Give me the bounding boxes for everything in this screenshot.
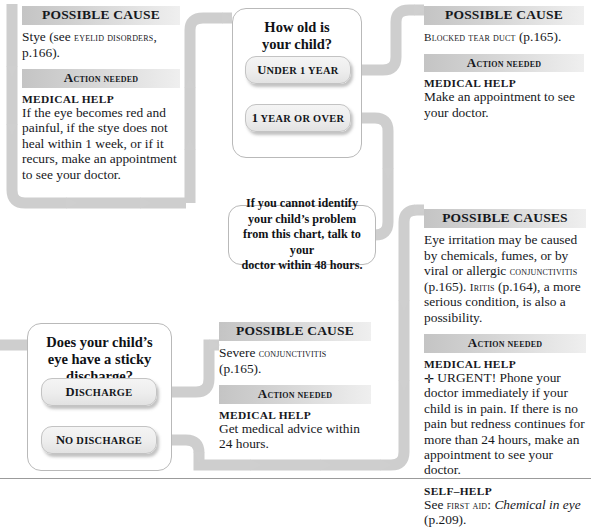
answer-discharge-label: DISCHARGE bbox=[66, 385, 133, 400]
eye-irritation-action-needed-heading: ACTION NEEDED bbox=[424, 334, 586, 353]
cannot-identify-line1: If you cannot identify bbox=[246, 196, 358, 210]
urgent-icon: ✛ bbox=[424, 373, 434, 385]
question-discharge-title-line2: eye have a sticky bbox=[48, 351, 152, 367]
panel-eye-irritation: POSSIBLE CAUSES Eye irritation may be ca… bbox=[424, 209, 586, 528]
blocked-tear-duct-medical-help-label: MEDICAL HELP bbox=[424, 77, 584, 89]
sc-cause-ref: (p.165). bbox=[219, 361, 261, 376]
stye-action-initial: A bbox=[64, 70, 74, 85]
eye-irritation-cause-text: Eye irritation may be caused by chemical… bbox=[424, 232, 586, 325]
severe-conjunctivitis-medical-help-label: MEDICAL HELP bbox=[219, 409, 371, 421]
btd-action-initial: A bbox=[467, 55, 477, 70]
question-discharge-title-line1: Does your child’s bbox=[46, 334, 152, 350]
eye-irritation-ref-1: (p.165). bbox=[424, 279, 470, 294]
scj-action-rest: CTION NEEDED bbox=[267, 388, 332, 400]
self-help-ref: (p.209). bbox=[424, 512, 466, 527]
answer-no-discharge-label: NO DISCHARGE bbox=[56, 433, 142, 448]
eye-irritation-self-help-label: SELF–HELP bbox=[424, 485, 586, 497]
panel-blocked-tear-duct: POSSIBLE CAUSE Blocked tear duct (p.165)… bbox=[424, 6, 584, 120]
cannot-identify-text: If you cannot identify your child’s prob… bbox=[236, 196, 368, 274]
eye-irritation-possible-causes-heading: POSSIBLE CAUSES bbox=[424, 209, 586, 228]
answer-under-1-year[interactable]: UNDER 1 YEAR bbox=[245, 56, 351, 84]
blocked-tear-duct-term: Blocked tear duct bbox=[424, 31, 516, 43]
severe-conjunctivitis-cause-text: Severe conjunctivitis (p.165). bbox=[219, 345, 371, 376]
answer-1-year-or-over[interactable]: 1 YEAR OR OVER bbox=[245, 104, 351, 132]
severe-conjunctivitis-medical-help-text: Get medical advice within 24 hours. bbox=[219, 421, 371, 452]
eye-irritation-term-iritis: Iritis bbox=[470, 281, 495, 293]
answer-under-1-year-rest: NDER 1 YEAR bbox=[266, 65, 338, 76]
eye-irritation-medical-help-label: MEDICAL HELP bbox=[424, 358, 586, 370]
blocked-tear-duct-page-ref: (p.165). bbox=[516, 29, 562, 44]
answer-1-year-or-over-label: 1 YEAR OR OVER bbox=[252, 111, 345, 126]
panel-severe-conjunctivitis: POSSIBLE CAUSE Severe conjunctivitis (p.… bbox=[219, 322, 371, 452]
answer-discharge[interactable]: DISCHARGE bbox=[41, 378, 157, 406]
answer-discharge-initial: D bbox=[66, 385, 75, 399]
ei-action-rest: CTION NEEDED bbox=[477, 337, 542, 349]
answer-no-discharge-rest: O DISCHARGE bbox=[65, 435, 142, 446]
sc-term-conjunctivitis: conjunctivitis bbox=[259, 347, 327, 359]
self-help-topic: Chemical in eye bbox=[494, 497, 580, 512]
stye-cause-term: eyelid disorders bbox=[74, 31, 153, 43]
severe-conjunctivitis-possible-cause-heading: POSSIBLE CAUSE bbox=[219, 322, 371, 341]
self-help-lead: See bbox=[424, 497, 447, 512]
cannot-identify-line4: doctor within 48 hours. bbox=[242, 258, 363, 272]
question-age-title-line1: How old is bbox=[264, 19, 329, 35]
self-help-term-first-aid: first aid bbox=[447, 499, 488, 511]
answer-no-discharge[interactable]: NO DISCHARGE bbox=[41, 426, 157, 454]
cannot-identify-line2: your child’s problem bbox=[248, 212, 356, 226]
sc-cause-lead: Severe bbox=[219, 345, 259, 360]
scj-action-initial: A bbox=[258, 386, 268, 401]
ei-action-initial: A bbox=[468, 335, 478, 350]
stye-possible-cause-heading: POSSIBLE CAUSE bbox=[22, 6, 180, 25]
stye-cause-text: Stye (see eyelid disorders, p.166). bbox=[22, 29, 180, 60]
answer-no-discharge-initial: N bbox=[56, 433, 65, 447]
question-discharge-title: Does your child’s eye have a sticky disc… bbox=[28, 324, 171, 384]
blocked-tear-duct-cause-text: Blocked tear duct (p.165). bbox=[424, 29, 584, 44]
eye-irritation-medical-help-text: ✛ URGENT! Phone your doctor immediately … bbox=[424, 370, 586, 478]
stye-cause-text-lead: Stye (see bbox=[22, 29, 74, 44]
blocked-tear-duct-medical-help-text: Make an appointment to see your doctor. bbox=[424, 89, 584, 120]
stye-action-needed-heading: ACTION NEEDED bbox=[22, 69, 180, 88]
cannot-identify-bubble: If you cannot identify your child’s prob… bbox=[228, 205, 376, 265]
eye-irritation-medical-help-body: URGENT! Phone your doctor immediately if… bbox=[424, 370, 585, 478]
answer-under-1-year-label: UNDER 1 YEAR bbox=[257, 63, 338, 78]
severe-conjunctivitis-action-needed-heading: ACTION NEEDED bbox=[219, 385, 371, 404]
cannot-identify-line3: from this chart, talk to your bbox=[243, 227, 361, 257]
answer-discharge-rest: ISCHARGE bbox=[75, 387, 133, 398]
blocked-tear-duct-possible-cause-heading: POSSIBLE CAUSE bbox=[424, 6, 584, 25]
answer-1-year-or-over-rest: YEAR OR OVER bbox=[258, 113, 344, 124]
btd-action-rest: CTION NEEDED bbox=[476, 57, 541, 69]
eye-irritation-self-help-text: See first aid: Chemical in eye (p.209). bbox=[424, 497, 586, 528]
question-age-title-line2: your child? bbox=[262, 36, 332, 52]
panel-stye: POSSIBLE CAUSE Stye (see eyelid disorder… bbox=[22, 6, 180, 182]
stye-medical-help-text: If the eye becomes red and painful, if t… bbox=[22, 105, 180, 182]
blocked-tear-duct-action-needed-heading: ACTION NEEDED bbox=[424, 54, 584, 73]
question-age-title: How old is your child? bbox=[233, 9, 361, 53]
stye-action-rest: CTION NEEDED bbox=[73, 72, 138, 84]
eye-irritation-term-conjunctivitis: conjunctivitis bbox=[510, 265, 578, 277]
stye-medical-help-label: MEDICAL HELP bbox=[22, 93, 180, 105]
footer-divider bbox=[0, 478, 591, 479]
